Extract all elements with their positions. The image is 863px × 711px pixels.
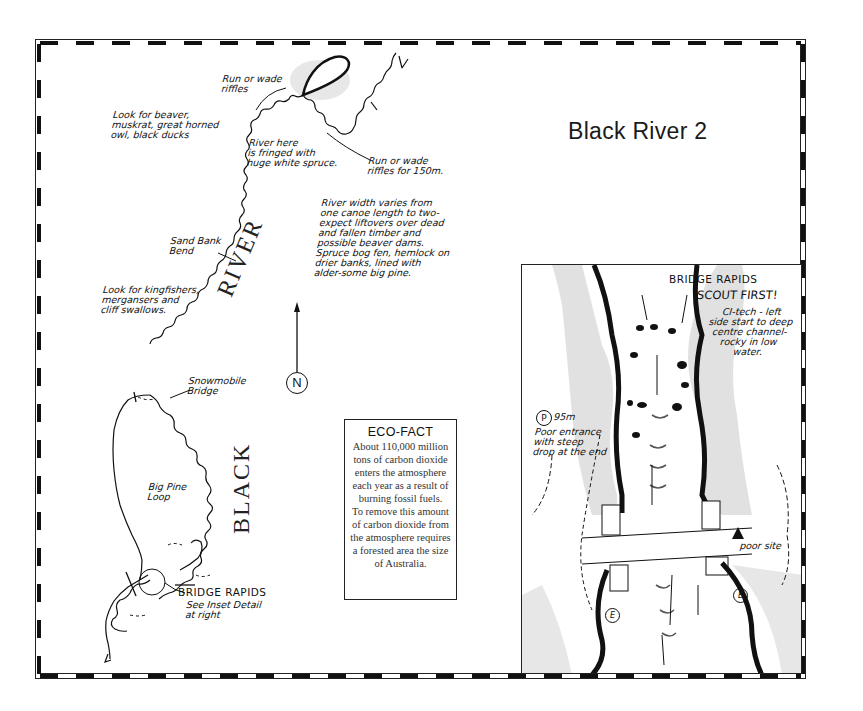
eco-fact-box: ECO-FACT About 110,000 million tons of c… — [344, 419, 457, 600]
left-bank-lower-stipple — [522, 585, 572, 674]
river-label-lower: BLACK — [228, 443, 255, 534]
left-bank-edge-lower — [592, 570, 607, 674]
note-river-width: River width varies from one canoe length… — [314, 198, 456, 278]
eddy-symbol-right-icon: E — [733, 588, 748, 603]
note-see-inset-detail: See Inset Detail at right — [185, 600, 262, 620]
map-title: Black River 2 — [568, 118, 707, 145]
side-trail — [532, 455, 552, 515]
eco-fact-line: To remove this amount — [347, 505, 454, 518]
eco-fact-line: the atmosphere requires — [347, 531, 454, 544]
inset-rapids-rating-note: CI-tech - left side start to deep centre… — [705, 307, 794, 357]
eco-fact-line: a forested area the size — [347, 544, 454, 557]
note-run-wade-riffles: Run or wade riffles — [221, 74, 283, 94]
eco-fact-line: of Australia. — [347, 557, 454, 570]
rocks — [627, 324, 689, 438]
eco-fact-line: each year as a result of — [347, 479, 454, 492]
north-compass-icon: N — [286, 372, 308, 394]
north-arrow-head — [294, 302, 300, 312]
note-sand-bank-bend: Sand Bank Bend — [169, 236, 222, 256]
eco-fact-line: enters the atmosphere — [347, 466, 454, 479]
eco-fact-body: About 110,000 million tons of carbon dio… — [345, 440, 456, 570]
bridge-rapids-inset: BRIDGE RAPIDS SCOUT FIRST! CI-tech - lef… — [521, 264, 802, 674]
bridge-abutment — [702, 501, 720, 529]
trail-dashes — [130, 397, 210, 616]
portage-note: Poor entrance with steep drop at the end — [532, 427, 609, 457]
bridge-abutment — [602, 505, 620, 535]
inset-title: BRIDGE RAPIDS — [669, 273, 758, 285]
eco-fact-line: of carbon dioxide from — [347, 518, 454, 531]
bridge-abutment — [610, 565, 628, 591]
bridge-rapids-circle — [139, 569, 165, 595]
note-wildlife-kingfishers: Look for kingfishers, mergansers and cli… — [100, 285, 200, 315]
campsite-note: poor site — [739, 541, 782, 551]
wave-chevrons — [650, 415, 676, 636]
eddy-symbol-left-icon: E — [605, 608, 620, 623]
eco-fact-line: burning fossil fuels. — [347, 492, 454, 505]
lake-shape — [290, 57, 350, 100]
inset-scout-first: SCOUT FIRST! — [696, 290, 777, 300]
note-big-pine-loop: Big Pine Loop — [147, 482, 188, 502]
note-snowmobile-bridge: Snowmobile Bridge — [187, 376, 247, 396]
label-bridge-rapids: BRIDGE RAPIDS — [178, 586, 267, 598]
note-river-fringed: River here is fringed with huge white sp… — [246, 138, 340, 168]
note-run-wade-riffles-150m: Run or wade riffles for 150m. — [367, 156, 445, 176]
portage-symbol-icon: P — [536, 410, 552, 426]
eco-fact-line: About 110,000 million — [347, 440, 454, 453]
eco-fact-title: ECO-FACT — [345, 425, 456, 439]
eco-fact-line: tons of carbon dioxide — [347, 453, 454, 466]
note-wildlife-beaver: Look for beaver, muskrat, great horned o… — [110, 110, 220, 140]
portage-length: 95m — [553, 412, 575, 422]
right-bank-lower-stipple — [732, 565, 802, 674]
